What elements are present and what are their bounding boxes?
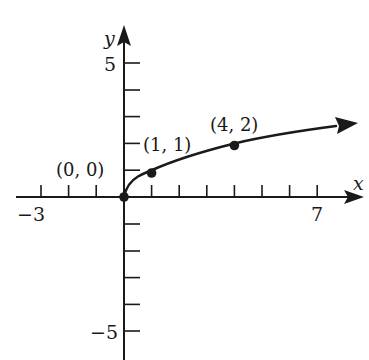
point-4-2 [230,141,240,151]
point-0-0 [119,192,129,202]
point-1-1 [147,168,157,178]
curve-arrow-icon [335,117,358,134]
y-tick-label-neg5: −5 [90,321,118,343]
x-tick-label-neg3: −3 [17,203,45,225]
point-label-4-2: (4, 2) [210,114,258,135]
x-tick-label-7: 7 [311,203,323,225]
x-ticks [41,185,317,197]
point-label-0-0: (0, 0) [56,159,104,180]
x-axis-label: x [353,172,364,194]
sqrt-graph: y x 5 −5 −3 7 (0, 0) (1, 1) (4, 2) [0,0,369,360]
y-axis-label: y [103,27,115,49]
y-tick-label-5: 5 [104,53,116,75]
point-label-1-1: (1, 1) [143,134,191,155]
